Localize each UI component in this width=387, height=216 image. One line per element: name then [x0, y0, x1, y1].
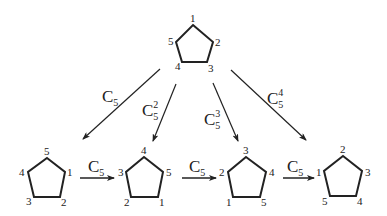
svg-text:3: 3 [243, 144, 249, 156]
svg-text:3: 3 [26, 195, 32, 207]
vertex-label: 4 [175, 60, 181, 72]
svg-text:3: 3 [365, 166, 371, 178]
svg-text:1: 1 [159, 196, 165, 208]
arrow-label-c5: C5 [287, 157, 303, 178]
arrow-label-c5: C5 [88, 157, 104, 178]
rotation-diagram-svg: 1 2 3 4 5 C5 C25 C35 C45 5 1 2 3 4 4 5 1… [0, 0, 387, 216]
bottom-pentagon-3: 3 4 5 1 2 [219, 144, 275, 208]
bottom-pentagon-2: 4 5 1 2 3 [118, 144, 172, 208]
diagonal-arrows: C5 C25 C35 C45 [83, 69, 306, 141]
svg-text:5: 5 [322, 195, 328, 207]
svg-text:4: 4 [269, 166, 275, 178]
diagram: 1 2 3 4 5 C5 C25 C35 C45 5 1 2 3 4 4 5 1… [0, 0, 387, 216]
arrow-label-c5: C5 [102, 87, 118, 108]
vertex-label: 3 [208, 62, 214, 74]
bottom-pentagon-1: 5 1 2 3 4 [19, 145, 73, 208]
svg-text:1: 1 [67, 166, 73, 178]
svg-text:1: 1 [316, 166, 322, 178]
svg-text:5: 5 [261, 196, 267, 208]
svg-text:4: 4 [19, 166, 25, 178]
svg-text:2: 2 [124, 196, 130, 208]
top-pentagon: 1 2 3 4 5 [168, 12, 221, 74]
bottom-pentagon-4: 2 3 4 5 1 [316, 143, 371, 207]
svg-text:4: 4 [357, 195, 363, 207]
svg-text:2: 2 [61, 196, 67, 208]
vertex-label: 5 [168, 35, 174, 47]
arrow-label-c5: C5 [189, 157, 205, 178]
svg-text:2: 2 [219, 166, 225, 178]
arrow-label-c5-2: C25 [142, 99, 158, 122]
vertex-label: 2 [215, 36, 221, 48]
horizontal-arrows: C5 C5 C5 [80, 157, 314, 178]
arrow-label-c5-4: C45 [267, 87, 283, 110]
svg-text:5: 5 [166, 166, 172, 178]
arrow-label-c5-3: C35 [204, 108, 220, 131]
svg-text:1: 1 [226, 196, 232, 208]
vertex-label: 1 [190, 12, 196, 24]
svg-text:4: 4 [141, 144, 147, 156]
svg-text:5: 5 [44, 145, 50, 157]
svg-text:3: 3 [118, 166, 124, 178]
svg-text:2: 2 [340, 143, 346, 155]
